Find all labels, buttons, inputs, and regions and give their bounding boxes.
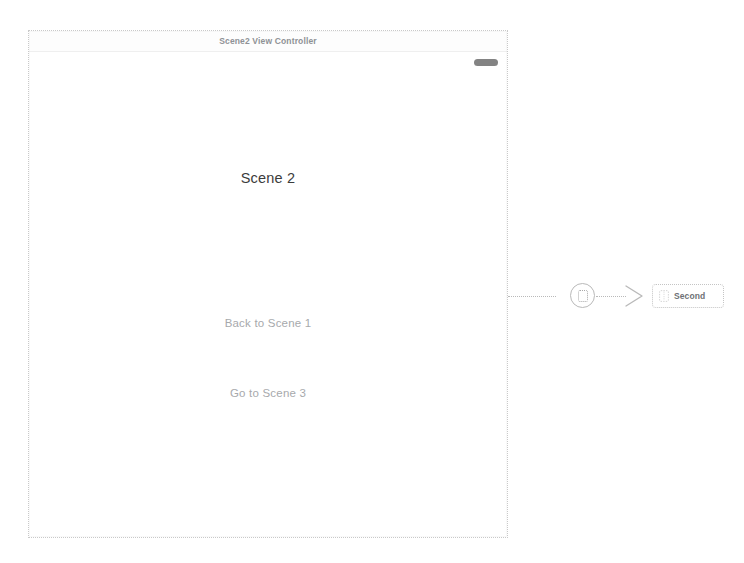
view-controller-icon (659, 290, 669, 302)
segue-action-glyph (578, 290, 588, 302)
back-to-scene-1-button[interactable]: Back to Scene 1 (29, 317, 507, 329)
chevron-right-icon (622, 283, 648, 309)
segue-connection-line-left (508, 296, 556, 297)
storyboard-scene-canvas[interactable]: Scene2 View Controller Scene 2 Back to S… (28, 30, 508, 538)
scene-navigation-bar[interactable]: Scene2 View Controller (29, 31, 507, 52)
segue-destination-label: Second (674, 291, 705, 301)
segue-destination-second[interactable]: Second (652, 284, 724, 308)
home-indicator-pill-icon (474, 59, 498, 66)
go-to-scene-3-button[interactable]: Go to Scene 3 (29, 387, 507, 399)
scene-title-bar-label: Scene2 View Controller (219, 36, 317, 46)
scene-heading-label: Scene 2 (29, 170, 507, 186)
segue-action-icon[interactable] (570, 283, 595, 308)
